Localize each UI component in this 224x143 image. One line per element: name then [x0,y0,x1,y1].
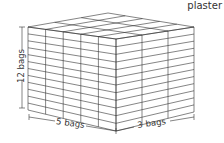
depth-label: 3 bags [137,116,167,130]
height-label: 12 bags [16,48,26,83]
width-label: 5 bags [56,116,86,130]
width-dimension: 5 bags [29,114,116,134]
bag-stack-diagram: 12 bags 5 bags 3 bags [0,0,224,143]
height-dimension: 12 bags [16,27,26,108]
depth-dimension: 3 bags [116,114,194,131]
